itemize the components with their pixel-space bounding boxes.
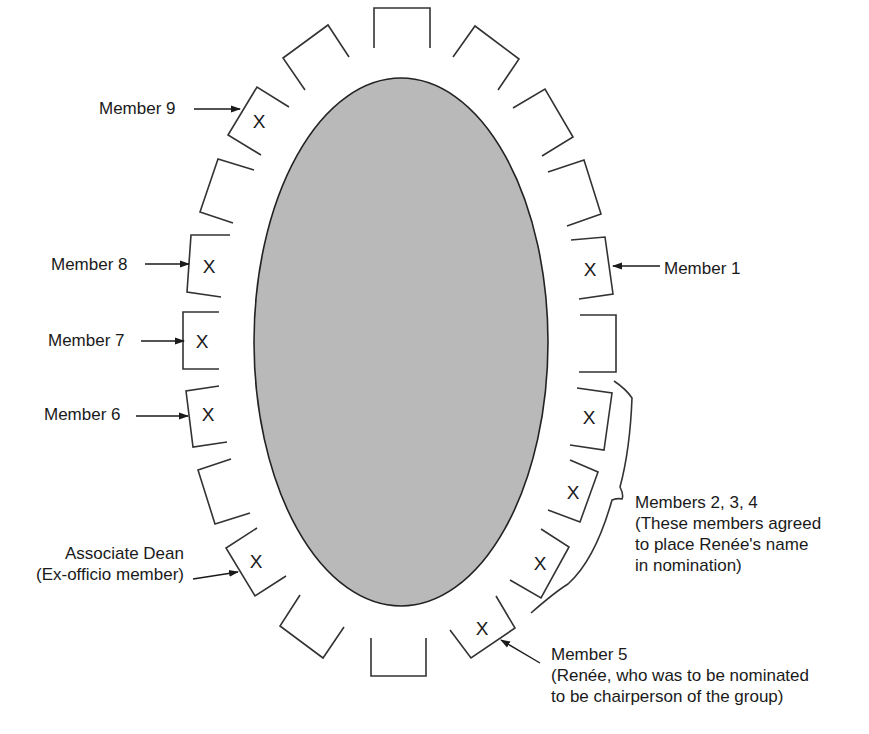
chair-bottom	[371, 638, 426, 676]
seat-mark-member-9: X	[253, 111, 266, 132]
chair-right-empty	[579, 315, 616, 372]
label-associate-dean-title: Associate Dean	[12, 543, 184, 564]
label-member-6: Member 6	[44, 404, 121, 425]
seat-mark-member-6: X	[202, 404, 215, 425]
chair-top-right-1	[453, 26, 519, 90]
chair-bottom-left	[280, 595, 344, 658]
arrow-associate-dean	[193, 572, 238, 579]
members-2-3-4-brace	[531, 381, 632, 613]
seat-mark-member-7: X	[196, 331, 209, 352]
label-associate-dean-note: (Ex-officio member)	[12, 564, 184, 585]
seat-mark-member-5: X	[476, 618, 489, 639]
label-members-2-3-4-note-3: in nomination)	[635, 555, 821, 576]
chair-top	[374, 8, 430, 48]
label-member-8: Member 8	[51, 254, 128, 275]
chair-right-upper	[548, 160, 601, 226]
seat-mark-member-2: X	[583, 407, 596, 428]
label-associate-dean: Associate Dean (Ex-officio member)	[12, 543, 184, 585]
label-member-9: Member 9	[99, 98, 176, 119]
label-member-7: Member 7	[48, 330, 125, 351]
seat-mark-member-1: X	[584, 259, 597, 280]
seat-mark-member-8: X	[203, 256, 216, 277]
label-member-5-title: Member 5	[551, 644, 809, 665]
label-member-5-note-1: (Renée, who was to be nominated	[551, 665, 809, 686]
label-members-2-3-4: Members 2, 3, 4 (These members agreed to…	[635, 492, 821, 576]
arrow-member-5	[501, 640, 540, 663]
chair-left-upper	[200, 159, 254, 223]
seat-mark-member-4: X	[534, 553, 547, 574]
label-member-1: Member 1	[664, 258, 741, 279]
label-member-5-note-2: to be chairperson of the group)	[551, 686, 809, 707]
chair-top-left	[283, 25, 349, 90]
chair-left-lower	[198, 459, 250, 524]
label-members-2-3-4-note-2: to place Renée's name	[635, 534, 821, 555]
label-members-2-3-4-note-1: (These members agreed	[635, 513, 821, 534]
seat-mark-member-3: X	[567, 482, 580, 503]
conference-table	[254, 78, 548, 606]
label-member-5: Member 5 (Renée, who was to be nominated…	[551, 644, 809, 707]
label-members-2-3-4-title: Members 2, 3, 4	[635, 492, 821, 513]
seat-mark-associate-dean: X	[250, 551, 263, 572]
chair-top-right-2	[513, 89, 573, 156]
